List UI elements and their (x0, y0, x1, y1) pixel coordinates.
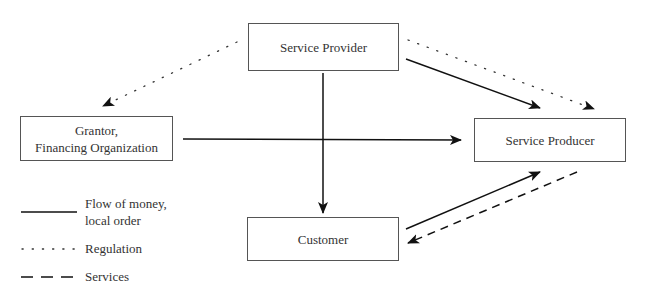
legend-solid-label-line2: local order (85, 212, 167, 229)
node-service-producer: Service Producer (474, 118, 626, 162)
node-grantor-label-line1: Grantor, (75, 122, 118, 139)
edge-provider-to-producer-money (406, 59, 540, 108)
node-service-provider: Service Provider (248, 23, 399, 71)
legend-dashed-label: Services (85, 268, 129, 285)
legend-solid-label-line1: Flow of money, (85, 195, 167, 212)
node-grantor-label-line2: Financing Organization (35, 139, 158, 156)
edge-provider-to-grantor-regulation (103, 42, 237, 106)
edge-customer-to-producer-money (406, 172, 540, 229)
legend-dotted-label: Regulation (85, 240, 142, 257)
node-customer-label: Customer (298, 231, 349, 248)
node-customer: Customer (247, 217, 399, 261)
edge-grantor-to-producer-money (183, 139, 461, 140)
edge-provider-to-producer-regulation (408, 40, 594, 109)
node-service-producer-label: Service Producer (505, 132, 594, 149)
edge-producer-to-customer-services (408, 172, 577, 243)
node-grantor: Grantor, Financing Organization (20, 116, 173, 161)
node-service-provider-label: Service Provider (280, 39, 367, 56)
legend-solid-label: Flow of money, local order (85, 195, 167, 229)
